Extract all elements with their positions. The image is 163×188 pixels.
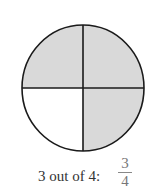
caption-text: 3 out of 4:	[38, 168, 100, 185]
fraction: 3 4	[118, 156, 132, 188]
fraction-circle	[0, 0, 163, 160]
quadrant-top-left	[22, 25, 83, 88]
quadrant-top-right	[83, 25, 144, 88]
quadrant-bottom-right	[83, 88, 144, 151]
quadrant-bottom-left	[22, 88, 83, 151]
fraction-numerator: 3	[118, 156, 132, 171]
fraction-denominator: 4	[118, 174, 132, 188]
